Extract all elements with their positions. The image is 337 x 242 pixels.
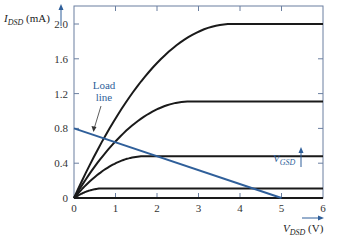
load-line-pointer-icon xyxy=(94,106,101,129)
x-axis-arrowhead-icon xyxy=(318,216,324,221)
iv-characteristic-chart: 012345600.40.81.21.62.0 IDSD (mA) VDSD (… xyxy=(0,0,337,242)
x-tick-label: 6 xyxy=(320,202,326,214)
y-tick-label: 1.6 xyxy=(54,53,68,65)
y-tick-label: 0 xyxy=(63,192,69,204)
y-tick-label: 0.8 xyxy=(54,122,68,134)
vgsd-label: VGSD xyxy=(273,152,296,167)
y-axis-arrowhead-icon xyxy=(59,4,64,10)
characteristic-curves xyxy=(74,24,323,198)
y-tick-label: 0.4 xyxy=(54,157,68,169)
load-line-label-2: line xyxy=(96,91,113,103)
x-tick-label: 5 xyxy=(279,202,285,214)
load-line-pointer-head-icon xyxy=(92,126,97,132)
vgsd-arrowhead-icon xyxy=(299,147,304,153)
load-line-label: Load xyxy=(93,79,116,91)
y-axis-label: IDSD (mA) xyxy=(3,12,50,27)
x-axis-label: VDSD (V) xyxy=(283,222,324,237)
y-tick-label: 1.2 xyxy=(54,88,68,100)
x-tick-label: 1 xyxy=(113,202,119,214)
x-tick-label: 4 xyxy=(237,202,243,214)
x-tick-label: 2 xyxy=(154,202,160,214)
characteristic-curve xyxy=(74,24,323,198)
characteristic-curve xyxy=(74,101,323,198)
x-tick-label: 0 xyxy=(71,202,77,214)
x-tick-label: 3 xyxy=(196,202,202,214)
